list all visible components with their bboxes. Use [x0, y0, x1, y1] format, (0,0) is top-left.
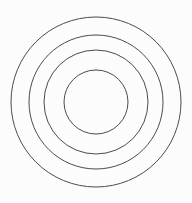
figure-canvas — [0, 0, 192, 203]
concentric-circles-figure — [0, 0, 192, 203]
